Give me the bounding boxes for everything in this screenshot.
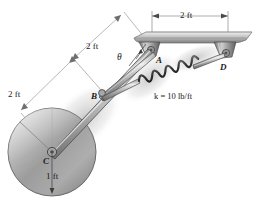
label-dim-ceiling: 2 ft [180,11,192,20]
label-point-c: C [43,157,49,166]
label-angle-theta: θ [117,53,122,63]
label-point-b: B [91,92,97,101]
angle-theta-arrow [139,49,144,54]
label-dim-rod-lower: 2 ft [8,90,20,99]
figure-canvas: 2 ft 2 ft 2 ft 1 ft A B C D θ k = 10 lb/… [0,0,256,199]
mechanics-diagram [0,0,256,199]
label-point-d: D [220,63,227,72]
label-dim-wheel-radius: 1 ft [46,172,58,181]
label-dim-rod-upper: 2 ft [86,42,98,51]
ceiling-plate [134,32,252,43]
label-spring-stiffness: k = 10 lb/ft [154,92,192,101]
label-point-a: A [156,56,162,65]
